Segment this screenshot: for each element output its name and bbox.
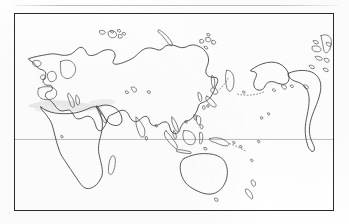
land-scandinavia — [60, 60, 75, 78]
hawaiian-islands — [267, 113, 269, 116]
page-rule — [14, 5, 339, 6]
melanesian-island-chain — [230, 144, 247, 152]
land-borneo — [183, 131, 196, 145]
world-map[interactable] — [15, 14, 333, 210]
land-malay-peninsula — [173, 131, 176, 139]
land-sulawesi — [199, 133, 202, 144]
land-iberia — [38, 87, 57, 100]
land-new-guinea — [210, 138, 229, 146]
land-korea — [198, 92, 202, 101]
land-alaska — [251, 62, 290, 90]
land-japan-kyushu — [203, 106, 206, 110]
kuril-island-chain — [220, 77, 229, 89]
land-svalbard-islet — [118, 34, 122, 38]
land-madagascar — [108, 156, 115, 175]
land-novaya-zemlya — [158, 30, 172, 46]
land-india — [136, 117, 145, 137]
land-eurasia — [29, 45, 218, 134]
aleutian-island-chain — [238, 91, 266, 95]
land-philippines-mindanao — [200, 125, 203, 129]
land-british-isles — [47, 71, 56, 81]
arctic-canada-islets — [309, 40, 331, 71]
map-frame[interactable] — [14, 13, 334, 211]
land-timor — [204, 147, 207, 150]
land-philippines — [196, 116, 200, 125]
page-canvas — [0, 0, 349, 224]
land-kamchatka — [226, 70, 234, 91]
land-java — [177, 150, 191, 154]
land-australia — [180, 154, 227, 195]
land-svalbard — [108, 31, 116, 38]
land-indochina — [172, 117, 178, 132]
land-japan-shikoku — [207, 105, 209, 108]
land-japan-honshu — [206, 96, 217, 107]
land-tasmania — [214, 198, 218, 201]
alaska-islets — [243, 85, 309, 93]
land-new-zealand-north — [251, 180, 255, 186]
land-new-zealand-south — [245, 189, 252, 199]
